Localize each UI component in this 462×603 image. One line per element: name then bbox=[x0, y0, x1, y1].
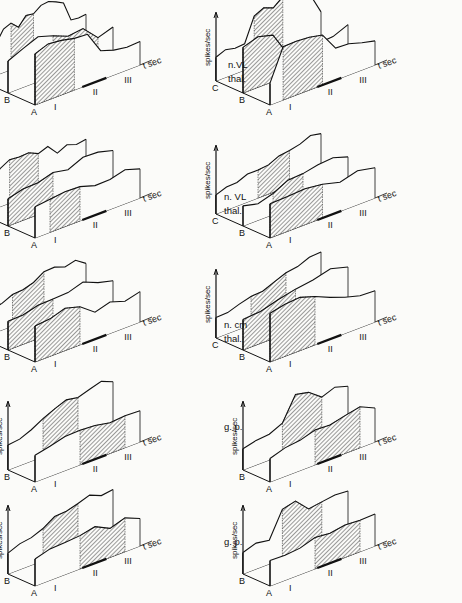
y-axis-label: spikes/sec bbox=[0, 418, 4, 455]
trace-label: A bbox=[266, 364, 272, 374]
region-label: thal. bbox=[224, 332, 247, 346]
panel-row3-left: spikes/secCBAIIIIIIt sec bbox=[0, 260, 163, 374]
region-label: thal. bbox=[228, 72, 248, 86]
trace-label: B bbox=[4, 472, 10, 482]
trace-label: A bbox=[31, 484, 37, 494]
trace-label: A bbox=[31, 364, 37, 374]
trace-label: B bbox=[239, 352, 245, 362]
y-axis-label: spikes/sec bbox=[203, 286, 212, 323]
figure-canvas: spikes/secCBAIIIIIIt secspikes/secCBAIII… bbox=[0, 0, 462, 603]
trace-label: B bbox=[239, 95, 245, 105]
period-label: I bbox=[289, 479, 292, 489]
row-label-4: g. p. bbox=[224, 420, 243, 434]
period-label: II bbox=[93, 220, 98, 230]
trace-label: A bbox=[31, 107, 37, 117]
period-label: II bbox=[93, 87, 98, 97]
period-label: I bbox=[289, 235, 292, 245]
period-label: I bbox=[54, 235, 57, 245]
trace-label: A bbox=[266, 107, 272, 117]
trace-label: A bbox=[31, 240, 37, 250]
x-axis-label: t sec bbox=[141, 188, 163, 204]
period-label: I bbox=[54, 583, 57, 593]
period-label: II bbox=[328, 464, 333, 474]
period-label: III bbox=[359, 556, 367, 566]
structure-label: g. p. bbox=[224, 535, 243, 549]
y-axis-label: spikes/sec bbox=[203, 162, 212, 199]
structure-label: n. VL bbox=[224, 190, 246, 204]
trace-label: A bbox=[31, 588, 37, 598]
trace-label: B bbox=[4, 352, 10, 362]
period-label: III bbox=[359, 332, 367, 342]
y-axis-label: spikes/sec bbox=[0, 522, 4, 559]
panel-row1-left: spikes/secCBAIIIIIIt sec bbox=[0, 1, 163, 117]
trace-label: C bbox=[212, 340, 219, 350]
x-axis-label: t sec bbox=[376, 536, 398, 552]
x-axis-label: t sec bbox=[141, 536, 163, 552]
trace-label: B bbox=[4, 95, 10, 105]
period-label: I bbox=[289, 102, 292, 112]
region-label: thal. bbox=[224, 204, 246, 218]
trace-label: B bbox=[239, 228, 245, 238]
period-label: I bbox=[54, 359, 57, 369]
trace-label: B bbox=[239, 472, 245, 482]
period-label: II bbox=[93, 464, 98, 474]
trace-label: A bbox=[266, 484, 272, 494]
panel-row5-left: spikes/secBAIIIIIIt sec bbox=[0, 490, 163, 599]
trace-label: B bbox=[239, 576, 245, 586]
period-label: III bbox=[124, 452, 132, 462]
y-axis-label: spikes/sec bbox=[203, 29, 212, 66]
period-label: II bbox=[93, 568, 98, 578]
trace-label: B bbox=[4, 576, 10, 586]
panel-row5-right: spikes/secBAIIIIIIt sec bbox=[230, 491, 398, 598]
period-label: I bbox=[54, 479, 57, 489]
x-axis-label: t sec bbox=[376, 55, 398, 71]
period-label: III bbox=[359, 208, 367, 218]
period-label: I bbox=[289, 359, 292, 369]
period-label: III bbox=[359, 75, 367, 85]
trace-label: C bbox=[212, 216, 219, 226]
period-label: III bbox=[124, 75, 132, 85]
period-label: I bbox=[54, 102, 57, 112]
structure-label: n. cm bbox=[224, 318, 247, 332]
period-label: II bbox=[328, 220, 333, 230]
period-label: III bbox=[359, 452, 367, 462]
panel-row4-right: spikes/secBAIIIIIIt sec bbox=[230, 386, 398, 494]
period-label: II bbox=[93, 344, 98, 354]
period-label: III bbox=[124, 208, 132, 218]
period-label: III bbox=[124, 332, 132, 342]
period-label: II bbox=[328, 568, 333, 578]
x-axis-label: t sec bbox=[376, 312, 398, 328]
structure-label: n.VL bbox=[228, 58, 248, 72]
x-axis-label: t sec bbox=[376, 432, 398, 448]
period-label: I bbox=[289, 583, 292, 593]
x-axis-label: t sec bbox=[141, 312, 163, 328]
period-label: III bbox=[124, 556, 132, 566]
panel-row4-left: spikes/secBAIIIIIIt sec bbox=[0, 381, 163, 494]
row-label-1: n.VL thal. bbox=[228, 58, 248, 86]
trace-label: A bbox=[266, 240, 272, 250]
period-label: II bbox=[328, 344, 333, 354]
structure-label: g. p. bbox=[224, 420, 243, 434]
row-label-2: n. VL thal. bbox=[224, 190, 246, 218]
row-label-5: g. p. bbox=[224, 535, 243, 549]
row-label-3: n. cm thal. bbox=[224, 318, 247, 346]
trace-label: B bbox=[4, 228, 10, 238]
x-axis-label: t sec bbox=[141, 432, 163, 448]
trace-label: A bbox=[266, 588, 272, 598]
panel-row3-right: spikes/secCBAIIIIIIt sec bbox=[203, 252, 398, 374]
panel-row2-left: spikes/secCBAIIIIIIt sec bbox=[0, 139, 163, 250]
trace-label: C bbox=[212, 83, 219, 93]
x-axis-label: t sec bbox=[376, 188, 398, 204]
period-label: II bbox=[328, 87, 333, 97]
x-axis-label: t sec bbox=[141, 55, 163, 71]
